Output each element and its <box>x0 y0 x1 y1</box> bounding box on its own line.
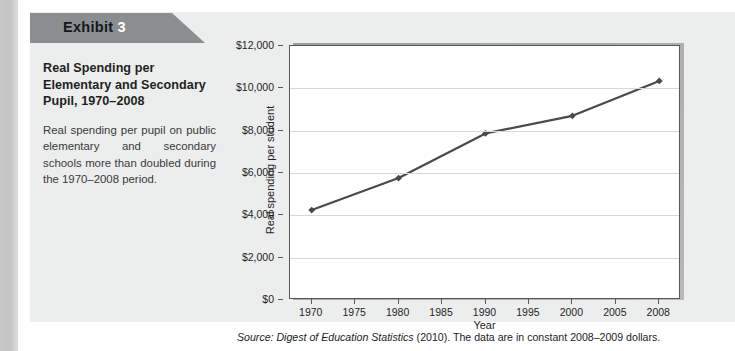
x-axis-tick-label: 1980 <box>386 306 409 318</box>
source-title: Digest of Education Statistics <box>276 331 413 343</box>
exhibit-tab-text: Exhibit3 <box>63 19 126 35</box>
x-axis-tick-label: 2005 <box>603 306 626 318</box>
exhibit-title: Real Spending per Elementary and Seconda… <box>43 60 216 110</box>
y-axis-tick-mark <box>278 87 283 88</box>
page-margin <box>18 0 30 351</box>
x-axis-tick-mark <box>485 299 486 304</box>
y-axis-tick-label: $8,000 <box>242 124 274 136</box>
y-axis-tick-mark <box>278 257 283 258</box>
plot-area <box>289 45 680 299</box>
data-point-marker <box>656 78 663 85</box>
source-note: Source: Digest of Education Statistics (… <box>237 331 660 343</box>
y-axis-tick-mark <box>278 172 283 173</box>
line-chart: Real spending per student $0$2,000$4,000… <box>232 36 702 324</box>
data-point-marker <box>569 112 576 119</box>
x-axis-tick-mark <box>354 299 355 304</box>
y-axis-tick-mark <box>278 45 283 46</box>
x-axis-tick-mark <box>311 299 312 304</box>
exhibit-tab-number: 3 <box>117 19 125 35</box>
gridline <box>290 215 679 216</box>
gridline <box>290 88 679 89</box>
page-gutter-shadow <box>0 0 18 351</box>
x-axis-tick-labels: 197019751980198519901995200020052008 <box>289 299 680 321</box>
y-axis-tick-labels: $0$2,000$4,000$6,000$8,000$10,000$12,000 <box>232 36 283 308</box>
x-axis-tick-label: 2000 <box>560 306 583 318</box>
x-axis-tick-mark <box>658 299 659 304</box>
y-axis-tick-label: $2,000 <box>242 251 274 263</box>
y-axis-tick-label: $6,000 <box>242 166 274 178</box>
source-rest: (2010). The data are in constant 2008–20… <box>414 331 661 343</box>
gridline <box>290 258 679 259</box>
x-axis-tick-mark <box>571 299 572 304</box>
exhibit-caption-column: Real Spending per Elementary and Seconda… <box>43 60 216 188</box>
y-axis-tick-label: $12,000 <box>236 39 274 51</box>
gridline <box>290 131 679 132</box>
y-axis-tick-mark <box>278 214 283 215</box>
data-point-marker <box>308 207 315 214</box>
x-axis-tick-label: 2008 <box>647 306 670 318</box>
exhibit-description: Real spending per pupil on public elemen… <box>43 122 216 188</box>
x-axis-tick-mark <box>441 299 442 304</box>
x-axis-tick-label: 1985 <box>429 306 452 318</box>
y-axis-tick-label: $0 <box>262 293 274 305</box>
data-line <box>312 81 660 210</box>
source-label: Source: <box>237 331 274 343</box>
x-axis-tick-label: 1975 <box>342 306 365 318</box>
x-axis-title: Year <box>289 319 680 331</box>
x-axis-tick-mark <box>528 299 529 304</box>
y-axis-tick-label: $4,000 <box>242 208 274 220</box>
y-axis-tick-mark <box>278 130 283 131</box>
y-axis-tick-mark <box>278 299 283 300</box>
x-axis-tick-mark <box>398 299 399 304</box>
y-axis-tick-label: $10,000 <box>236 81 274 93</box>
exhibit-tab-label: Exhibit <box>63 19 113 35</box>
x-axis-tick-label: 1995 <box>516 306 539 318</box>
gridline <box>290 173 679 174</box>
x-axis-tick-label: 1990 <box>473 306 496 318</box>
x-axis-tick-label: 1970 <box>299 306 322 318</box>
x-axis-tick-mark <box>615 299 616 304</box>
